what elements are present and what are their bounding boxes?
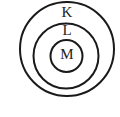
- shell-m-label: M: [60, 46, 73, 62]
- shell-k-label: K: [62, 4, 73, 20]
- shell-l-label: L: [62, 22, 71, 38]
- shell-diagram: K L M: [0, 0, 120, 117]
